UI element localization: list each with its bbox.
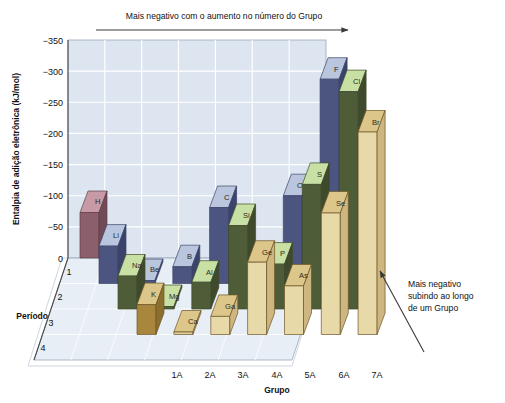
bar-label-Ge: Ge [262, 248, 272, 257]
annotation-right-line3: de um Grupo [408, 303, 458, 313]
group-tick-1A: 1A [171, 370, 182, 380]
bar-As: As [285, 264, 312, 334]
annotation-top-text: Mais negativo com o aumento no número do… [126, 11, 323, 21]
bar-label-Ga: Ga [225, 302, 236, 311]
y-tick-100: −100 [43, 191, 63, 201]
period-axis-title: Período [16, 311, 48, 321]
bar-label-B: B [187, 252, 192, 261]
y-tick-250: −250 [43, 98, 63, 108]
bar-label-Cl: Cl [353, 77, 360, 86]
period-tick-3: 3 [48, 318, 53, 328]
bar-label-Li: Li [113, 231, 119, 240]
bar-label-C: C [224, 193, 230, 202]
electron-affinity-3d-bar-chart: 0 −50 −100 −150 −200 −250 −300 −350 Enta… [0, 0, 505, 403]
annotation-right-line2: subindo ao longo [408, 291, 474, 301]
bar-label-F: F [334, 65, 339, 74]
group-tick-5A: 5A [304, 370, 315, 380]
bar-label-Mg: Mg [169, 292, 180, 301]
bar-label-H: H [95, 197, 100, 206]
y-tick-200: −200 [43, 129, 63, 139]
bar-Br: Br [358, 111, 385, 335]
bar-label-Be: Be [150, 265, 159, 274]
bar-label-Si: Si [243, 211, 250, 220]
bar-label-Br: Br [372, 118, 380, 127]
bar-label-S: S [317, 170, 322, 179]
bar-label-P: P [280, 249, 285, 258]
y-tick-300: −300 [43, 67, 63, 77]
y-tick-150: −150 [43, 160, 63, 170]
group-axis-title: Grupo [264, 385, 290, 395]
period-tick-1: 1 [66, 267, 71, 277]
group-tick-4A: 4A [271, 370, 282, 380]
bar-label-K: K [151, 290, 156, 299]
bar-Se: Se [321, 192, 348, 335]
group-tick-2A: 2A [204, 370, 215, 380]
bar-Ge: Ge [248, 241, 275, 335]
bar-label-Ca: Ca [188, 317, 198, 326]
y-tick-0: 0 [58, 254, 63, 264]
bar-label-Na: Na [132, 261, 142, 270]
chart-figure: 0 −50 −100 −150 −200 −250 −300 −350 Enta… [0, 0, 505, 403]
group-tick-7A: 7A [371, 370, 382, 380]
y-tick-350: −350 [43, 36, 63, 46]
bar-label-As: As [299, 271, 308, 280]
y-tick-50: −50 [48, 222, 63, 232]
period-tick-4: 4 [40, 343, 45, 353]
group-tick-6A: 6A [338, 370, 349, 380]
bar-label-Se: Se [336, 199, 345, 208]
period-tick-2: 2 [57, 292, 62, 302]
annotation-right-line1: Mais negativo [408, 279, 461, 289]
y-axis-title: Entalpia de adição eletrônica (kJ/mol) [11, 73, 21, 225]
bar-label-Al: Al [206, 268, 213, 277]
group-tick-3A: 3A [237, 370, 248, 380]
